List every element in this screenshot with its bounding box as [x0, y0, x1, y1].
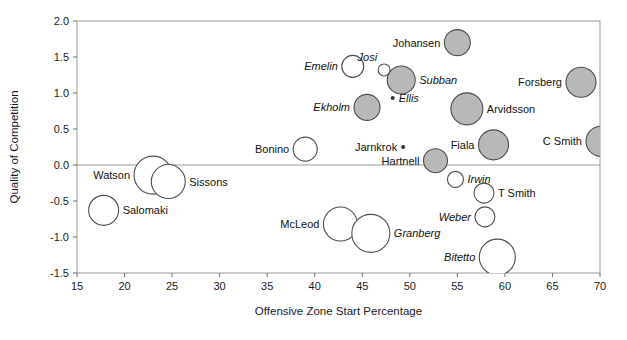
bubble-arvidsson: [451, 93, 483, 125]
x-tick-label: 65: [546, 280, 558, 292]
x-tick-label: 40: [309, 280, 321, 292]
bubble-ekholm: [354, 94, 380, 120]
label-granberg: Granberg: [394, 227, 441, 239]
bubble-weber: [475, 207, 495, 227]
x-axis-title: Offensive Zone Start Percentage: [255, 305, 422, 317]
bubble-jarnkrok: [401, 145, 405, 149]
label-johansen: Johansen: [393, 37, 441, 49]
y-tick-label: 0.0: [54, 159, 69, 171]
label-sissons: Sissons: [189, 176, 228, 188]
x-tick-label: 30: [214, 280, 226, 292]
x-tick-label: 45: [356, 280, 368, 292]
x-tick-label: 70: [594, 280, 606, 292]
bubble-forsberg: [566, 67, 596, 97]
label-bonino: Bonino: [255, 143, 289, 155]
bubble-t-smith: [474, 183, 494, 203]
x-tick-label: 15: [71, 280, 83, 292]
bubble-chart: 1520253035404550556065702.01.51.00.50.0-…: [0, 0, 627, 340]
y-tick-label: 0.5: [54, 123, 69, 135]
label-emelin: Emelin: [304, 60, 338, 72]
y-tick-label: -1.0: [50, 231, 69, 243]
bubble-johansen: [444, 30, 470, 56]
label-bitetto: Bitetto: [444, 251, 475, 263]
bubble-hartnell: [423, 149, 447, 173]
bubble-c-smith: [586, 126, 616, 156]
axis-tick-labels: 1520253035404550556065702.01.51.00.50.0-…: [50, 15, 606, 292]
y-tick-label: 2.0: [54, 15, 69, 27]
y-tick-label: -1.5: [50, 267, 69, 279]
x-tick-label: 25: [166, 280, 178, 292]
label-weber: Weber: [439, 211, 473, 223]
x-tick-label: 60: [499, 280, 511, 292]
label-subban: Subban: [419, 74, 457, 86]
label-ekholm: Ekholm: [313, 101, 350, 113]
bubble-series: [89, 30, 616, 276]
bubble-irwin: [447, 171, 463, 187]
x-tick-label: 20: [118, 280, 130, 292]
bubble-bitetto: [479, 239, 515, 275]
bubble-fiala: [478, 130, 508, 160]
y-tick-label: 1.5: [54, 51, 69, 63]
x-tick-label: 35: [261, 280, 273, 292]
label-fiala: Fiala: [451, 139, 476, 151]
label-c-smith: C Smith: [543, 135, 582, 147]
label-irwin: Irwin: [467, 173, 490, 185]
y-tick-label: -0.5: [50, 195, 69, 207]
label-ellis: Ellis: [399, 92, 420, 104]
label-josi: Josi: [357, 51, 378, 63]
x-tick-label: 55: [451, 280, 463, 292]
label-salomaki: Salomaki: [123, 204, 168, 216]
label-hartnell: Hartnell: [382, 155, 420, 167]
bubble-bonino: [293, 137, 317, 161]
bubble-salomaki: [89, 195, 119, 225]
y-tick-label: 1.0: [54, 87, 69, 99]
x-tick-label: 50: [404, 280, 416, 292]
label-watson: Watson: [93, 169, 130, 181]
y-axis-title: Quality of Competition: [8, 90, 20, 203]
bubble-subban: [387, 66, 415, 94]
label-t-smith: T Smith: [498, 187, 536, 199]
chart-canvas: 1520253035404550556065702.01.51.00.50.0-…: [0, 0, 627, 340]
label-forsberg: Forsberg: [518, 76, 562, 88]
bubble-ellis: [391, 96, 395, 100]
bubble-granberg: [352, 214, 390, 252]
bubble-sissons: [151, 165, 185, 199]
label-mcleod: McLeod: [280, 218, 319, 230]
label-arvidsson: Arvidsson: [487, 103, 535, 115]
label-jarnkrok: Jarnkrok: [355, 141, 398, 153]
